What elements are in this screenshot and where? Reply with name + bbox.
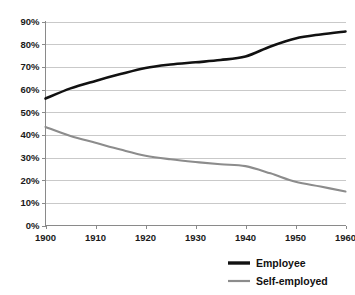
y-tick-label: 0% — [26, 220, 40, 231]
y-tick-label: 90% — [20, 16, 40, 27]
x-tick-label: 1950 — [285, 232, 306, 243]
y-tick-label: 80% — [20, 39, 40, 50]
line-chart: 0%10%20%30%40%50%60%70%80%90% 1900191019… — [0, 0, 355, 295]
x-tick-label: 1930 — [185, 232, 206, 243]
legend-label: Self-employed — [256, 275, 328, 287]
x-tick-label: 1900 — [35, 232, 56, 243]
x-tick-label: 1960 — [335, 232, 355, 243]
y-tick-label: 50% — [20, 107, 40, 118]
x-tick-label: 1910 — [85, 232, 106, 243]
y-tick-label: 60% — [20, 84, 40, 95]
y-tick-label: 20% — [20, 175, 40, 186]
y-tick-label: 40% — [20, 129, 40, 140]
x-tick-label: 1920 — [135, 232, 156, 243]
y-tick-label: 10% — [20, 197, 40, 208]
y-tick-label: 30% — [20, 152, 40, 163]
legend-label: Employee — [256, 257, 306, 269]
x-tick-label: 1940 — [235, 232, 256, 243]
y-tick-label: 70% — [20, 61, 40, 72]
